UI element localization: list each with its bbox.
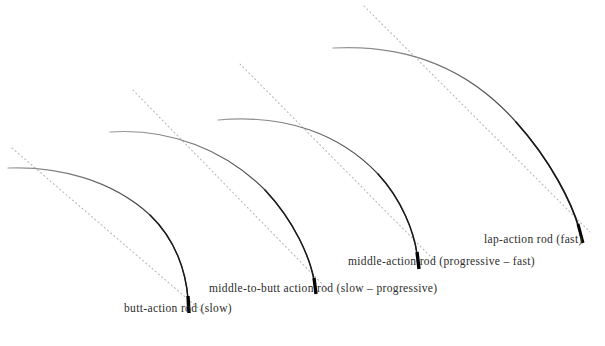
reference-line-butt-action [12,148,205,314]
rod-label-butt-action: butt-action rod (slow) [124,302,232,315]
rod-curve-butt-action-thickening [150,215,188,299]
rod-label-middle-action: middle-action rod (progressive – fast) [348,255,535,268]
rod-group-middle-to-butt-action [110,90,328,294]
reference-line-middle-action [240,64,436,262]
rod-label-middle-to-butt-action: middle-to-butt action rod (slow – progre… [209,282,438,295]
rod-group-butt-action [8,148,205,314]
rod-curve-middle-action-thickening [378,174,417,254]
rod-curve-middle-action [218,119,417,254]
cropped-caption-strip [0,334,605,346]
rod-group-middle-action [218,64,436,269]
cropped-caption-text [38,335,40,344]
rod-group-lap-action [333,6,590,243]
rod-curve-lap-action [333,48,579,228]
rod-curve-middle-to-butt-action [110,132,314,280]
rod-label-lap-action: lap-action rod (fast) [484,233,583,246]
rod-action-figure: butt-action rod (slow) middle-to-butt ac… [0,0,605,346]
rod-curve-butt-action [8,168,188,299]
reference-line-lap-action [364,6,590,232]
reference-line-middle-to-butt-action [133,90,328,290]
rod-curve-middle-to-butt-action-thickening [265,190,314,280]
